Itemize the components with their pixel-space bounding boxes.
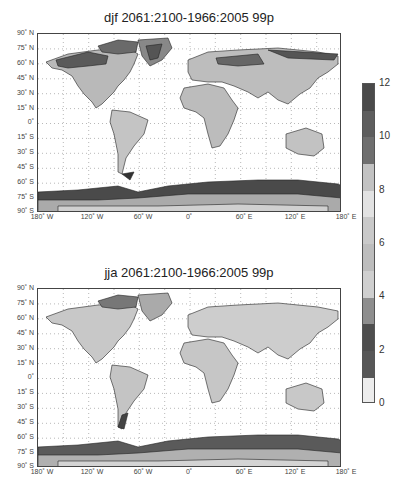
- colorbar: [362, 83, 375, 403]
- x-tick-60w: 60˚ W: [128, 213, 158, 220]
- x-tick-60e: 60˚ E: [229, 468, 259, 475]
- y-tick-15s: 15˚ S: [0, 388, 34, 395]
- x-tick-0: 0˚: [174, 213, 204, 220]
- colorbar-level-6-7: [363, 217, 374, 244]
- colorbar-level-7-8: [363, 191, 374, 218]
- colorbar-tick-8: 8: [379, 184, 385, 195]
- x-tick-180w: 180˚ W: [27, 468, 57, 475]
- y-tick-45n: 45˚ N: [0, 329, 34, 336]
- bottom-map-panel: [37, 288, 341, 467]
- y-tick-30n: 30˚ N: [0, 89, 34, 96]
- colorbar-level-2-3: [363, 324, 374, 351]
- y-tick-30s: 30˚ S: [0, 403, 34, 410]
- x-tick-60w: 60˚ W: [128, 468, 158, 475]
- colorbar-level-0-1: [363, 378, 374, 403]
- x-tick-180e: 180˚ E: [331, 468, 361, 475]
- y-tick-15n: 15˚ N: [0, 104, 34, 111]
- colorbar-level-10-11: [363, 111, 374, 138]
- colorbar-level-5-6: [363, 244, 374, 271]
- colorbar-level-1-2: [363, 351, 374, 378]
- x-tick-120e: 120˚ E: [280, 468, 310, 475]
- colorbar-level-3-4: [363, 298, 374, 325]
- x-tick-120w: 120˚ W: [77, 213, 107, 220]
- colorbar-level-4-5: [363, 271, 374, 298]
- y-tick-60n: 60˚ N: [0, 59, 34, 66]
- colorbar-tick-10: 10: [379, 130, 390, 141]
- bottom-panel-title: jja 2061:2100-1966:2005 99p: [37, 265, 341, 280]
- land-masses: [38, 293, 341, 467]
- x-tick-120e: 120˚ E: [280, 213, 310, 220]
- y-tick-0: 0˚: [0, 373, 34, 380]
- y-tick-90n: 90˚ N: [0, 29, 34, 36]
- y-tick-60n: 60˚ N: [0, 314, 34, 321]
- colorbar-level-8-9: [363, 164, 374, 191]
- y-tick-45n: 45˚ N: [0, 74, 34, 81]
- top-panel-title: djf 2061:2100-1966:2005 99p: [37, 10, 341, 25]
- x-tick-0: 0˚: [174, 468, 204, 475]
- y-tick-15n: 15˚ N: [0, 359, 34, 366]
- land-masses: [38, 38, 341, 212]
- x-tick-180w: 180˚ W: [27, 213, 57, 220]
- y-tick-15s: 15˚ S: [0, 133, 34, 140]
- y-tick-75n: 75˚ N: [0, 44, 34, 51]
- y-tick-75n: 75˚ N: [0, 299, 34, 306]
- colorbar-tick-6: 6: [379, 237, 385, 248]
- y-tick-30n: 30˚ N: [0, 344, 34, 351]
- world-map-djf: [38, 34, 341, 212]
- y-tick-90n: 90˚ N: [0, 284, 34, 291]
- y-tick-60s: 60˚ S: [0, 178, 34, 185]
- colorbar-tick-12: 12: [379, 77, 390, 88]
- y-tick-75s: 75˚ S: [0, 448, 34, 455]
- top-map-panel: [37, 33, 341, 212]
- y-tick-45s: 45˚ S: [0, 163, 34, 170]
- x-tick-60e: 60˚ E: [229, 213, 259, 220]
- colorbar-tick-4: 4: [379, 290, 385, 301]
- colorbar-tick-0: 0: [379, 397, 385, 408]
- y-tick-75s: 75˚ S: [0, 193, 34, 200]
- x-tick-180e: 180˚ E: [331, 213, 361, 220]
- colorbar-level-11-12: [363, 84, 374, 111]
- x-tick-120w: 120˚ W: [77, 468, 107, 475]
- y-tick-60s: 60˚ S: [0, 433, 34, 440]
- y-tick-30s: 30˚ S: [0, 148, 34, 155]
- world-map-jja: [38, 289, 341, 467]
- y-tick-45s: 45˚ S: [0, 418, 34, 425]
- colorbar-tick-2: 2: [379, 344, 385, 355]
- y-tick-0: 0˚: [0, 118, 34, 125]
- colorbar-level-9-10: [363, 137, 374, 164]
